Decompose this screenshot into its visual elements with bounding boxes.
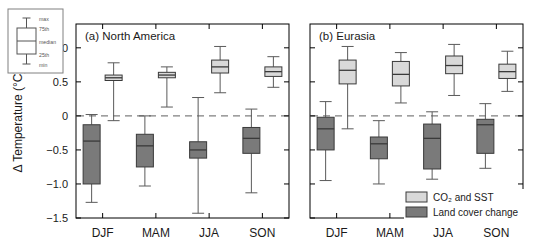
- figure-root: 1.00.50−0.5−1.0−1.5DJFMAMJJASON(a) North…: [0, 0, 544, 252]
- ytick-label-1: 0.5: [53, 76, 68, 88]
- xtick-label-a-2: JJA: [199, 226, 219, 240]
- key-label-0: max: [39, 16, 49, 22]
- ytick-label-2: 0: [62, 110, 68, 122]
- y-axis-title: Δ Temperature (°C): [11, 70, 25, 173]
- legend-swatch-co2_sst[interactable]: [406, 192, 427, 202]
- xtick-label-b-1: MAM: [376, 226, 404, 240]
- box-b-co2-sst-djf: [339, 60, 356, 84]
- box-b-co2-sst-jja: [446, 56, 463, 74]
- box-a-land-cover-mam: [136, 134, 153, 167]
- key-label-4: min: [39, 62, 47, 68]
- xtick-label-a-3: SON: [249, 226, 275, 240]
- legend-label-co2_sst: CO₂ and SST: [433, 192, 494, 203]
- boxplot-figure-svg: 1.00.50−0.5−1.0−1.5DJFMAMJJASON(a) North…: [0, 0, 544, 252]
- ytick-label-4: −1.0: [46, 178, 68, 190]
- panel-title-b: (b) Eurasia: [319, 30, 376, 42]
- box-a-land-cover-son: [243, 127, 260, 153]
- box-a-land-cover-djf: [83, 125, 100, 184]
- box-b-land-cover-jja: [424, 124, 441, 169]
- legend-swatch-land_cover[interactable]: [406, 207, 427, 217]
- xtick-label-b-3: SON: [483, 226, 509, 240]
- key-label-3: 25th: [39, 52, 49, 58]
- xtick-label-b-2: JJA: [433, 226, 453, 240]
- xtick-label-a-1: MAM: [142, 226, 170, 240]
- box-b-land-cover-djf: [317, 117, 334, 150]
- ytick-label-5: −1.5: [46, 212, 68, 224]
- panel-title-a: (a) North America: [85, 30, 176, 42]
- legend-label-land_cover: Land cover change: [433, 207, 519, 218]
- ytick-label-3: −0.5: [46, 144, 68, 156]
- key-label-1: 75th: [39, 26, 49, 32]
- xtick-label-b-0: DJF: [326, 226, 348, 240]
- box-b-co2-sst-mam: [392, 61, 409, 86]
- key-label-2: median: [39, 39, 56, 45]
- box-b-land-cover-mam: [370, 137, 387, 159]
- xtick-label-a-0: DJF: [92, 226, 114, 240]
